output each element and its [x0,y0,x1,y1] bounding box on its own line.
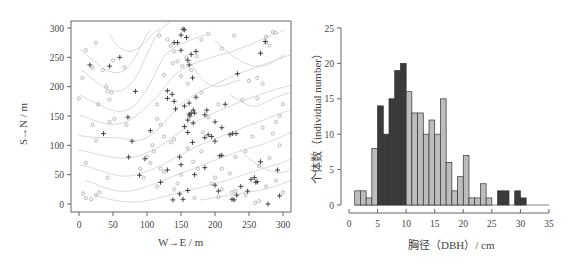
y-tick-label: 15 [325,94,335,104]
histogram-plot: 051015202505101520253035 [300,0,578,268]
x-tick-label: 100 [140,220,155,230]
x-tick-label: 20 [459,219,469,229]
x-tick-label: 5 [375,219,380,229]
histogram-bar [389,99,395,205]
histogram-bar [423,134,429,205]
y-tick-label: 25 [325,24,335,34]
y-tick-label: 250 [50,53,65,63]
histogram-bars [355,63,526,205]
histogram-bar [418,113,424,205]
x-tick-label: 200 [208,220,223,230]
histogram-bar [452,191,458,205]
histogram-bar [355,191,361,205]
histogram-bar [435,134,441,205]
y-tick-label: 300 [50,24,65,34]
plus-markers [87,27,282,207]
histogram-bar [515,191,521,205]
histogram-bar [458,177,464,205]
histogram-bar [429,120,435,205]
histogram-bar [383,134,389,205]
histogram-x-axis-label: 胸径（DBH）/ cm [408,236,494,252]
histogram-bar [446,163,452,205]
histogram-bar [440,99,446,205]
histogram-bar [400,63,406,205]
x-tick-label: 300 [276,220,291,230]
histogram-bar [378,106,384,205]
histogram-bar [412,113,418,205]
histogram-bar [406,92,412,205]
y-tick-label: 50 [55,170,65,180]
y-tick-label: 20 [325,59,335,69]
x-tick-label: 50 [108,220,118,230]
histogram-y-axis-label: 个体数（individual number） [308,48,324,184]
y-tick-label: 150 [50,112,65,122]
histogram-bar [366,198,372,205]
histogram-bar [475,198,481,205]
scatter-plot: 050100150200250300050100150200250300 [0,0,300,268]
histogram-bar [469,198,475,205]
dbh-histogram: 051015202505101520253035 胸径（DBH）/ cm 个体数… [300,0,578,268]
contour-lines [78,22,292,202]
x-tick-label: 0 [347,219,352,229]
x-tick-label: 30 [516,219,526,229]
x-tick-label: 150 [174,220,189,230]
histogram-bar [360,191,366,205]
x-tick-label: 0 [77,220,82,230]
y-tick-label: 200 [50,82,65,92]
y-tick-label: 10 [325,130,335,140]
histogram-bar [395,70,401,205]
scatter-y-axis-label: S→N / m [17,103,29,145]
histogram-bar [486,198,492,205]
histogram-bar [372,148,378,205]
spatial-distribution-map: 050100150200250300050100150200250300 W→E… [0,0,300,268]
x-tick-label: 15 [430,219,440,229]
y-tick-label: 0 [59,200,64,210]
x-tick-label: 250 [242,220,257,230]
histogram-bar [498,191,504,205]
x-tick-label: 10 [401,219,411,229]
y-tick-label: 100 [50,141,65,151]
x-tick-label: 25 [487,219,497,229]
y-tick-label: 0 [329,201,334,211]
circle-markers [77,31,284,205]
histogram-bar [480,184,486,205]
histogram-bar [463,155,469,205]
x-tick-label: 35 [544,219,554,229]
y-tick-label: 5 [329,165,334,175]
histogram-bar [520,198,526,205]
histogram-bar [503,191,509,205]
scatter-x-axis-label: W→E / m [158,236,203,248]
